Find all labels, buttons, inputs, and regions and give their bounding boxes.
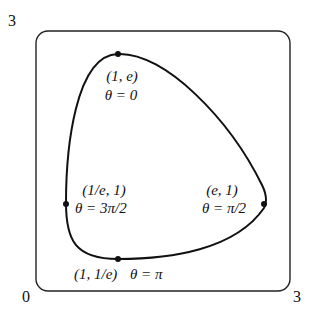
point-left <box>63 201 69 207</box>
left-coord-label: (1/e, 1) <box>82 183 125 198</box>
top-coord-label: (1, e) <box>106 69 138 84</box>
left-theta-label: θ = 3π/2 <box>75 201 127 216</box>
right-coord-label: (e, 1) <box>206 183 238 198</box>
bounding-box <box>36 31 290 291</box>
point-top <box>115 51 121 57</box>
point-right <box>261 201 267 207</box>
closed-curve <box>66 54 266 259</box>
bottom-coord-label: (1, 1/e) <box>74 267 117 282</box>
origin-label: 0 <box>22 289 30 305</box>
right-theta-label: θ = π/2 <box>202 201 246 216</box>
x-max-label: 3 <box>293 289 301 305</box>
point-bottom <box>115 256 121 262</box>
y-max-label: 3 <box>8 13 16 29</box>
bottom-theta-label: θ = π <box>130 267 163 282</box>
top-theta-label: θ = 0 <box>105 88 138 103</box>
